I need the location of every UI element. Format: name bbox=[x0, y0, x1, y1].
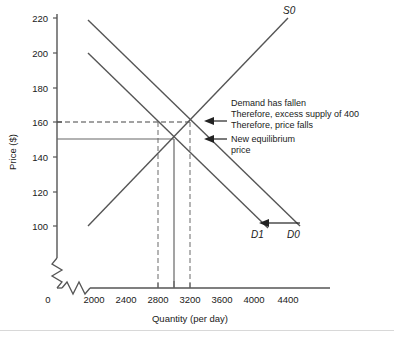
chart-canvas: 220 200 180 160 140 120 100 0 2000 2400 … bbox=[0, 0, 394, 338]
supply-demand-chart: 220 200 180 160 140 120 100 0 2000 2400 … bbox=[0, 0, 394, 338]
demand-old-curve-label: D0 bbox=[287, 229, 300, 240]
y-tick-label-180: 180 bbox=[32, 83, 48, 94]
demand-new-curve-label: D1 bbox=[251, 229, 264, 240]
x-tick-label-3600: 3600 bbox=[211, 294, 232, 305]
x-tick-label-4400: 4400 bbox=[277, 294, 298, 305]
x-tick-label-2000: 2000 bbox=[83, 294, 104, 305]
y-tick-label-200: 200 bbox=[32, 48, 48, 59]
x-tick-label-3200: 3200 bbox=[179, 294, 200, 305]
y-tick-label-140: 140 bbox=[32, 152, 48, 163]
y-tick-label-120: 120 bbox=[32, 187, 48, 198]
x-axis-break-zigzag-icon bbox=[62, 282, 90, 294]
annotation-new-equilibrium-line1: New equilibrium bbox=[231, 134, 295, 144]
x-axis-title: Quantity (per day) bbox=[152, 313, 228, 324]
new-equilibrium-arrow-head-icon bbox=[204, 135, 214, 143]
annotation-demand-fallen-line1: Demand has fallen bbox=[231, 98, 306, 108]
x-tick-label-4000: 4000 bbox=[243, 294, 264, 305]
x-tick-label-0: 0 bbox=[45, 294, 50, 305]
y-axis-break-zigzag-icon bbox=[52, 258, 62, 288]
annotation-demand-fallen-line3: Therefore, price falls bbox=[231, 120, 314, 130]
figure-bottom-rule bbox=[0, 330, 394, 331]
x-tick-label-2400: 2400 bbox=[115, 294, 136, 305]
supply-curve-label: S0 bbox=[283, 5, 296, 16]
x-tick-label-2800: 2800 bbox=[147, 294, 168, 305]
y-axis-title: Price ($) bbox=[7, 134, 18, 170]
annotation-new-equilibrium-line2: price bbox=[231, 145, 251, 155]
demand-fallen-arrow-head-icon bbox=[204, 117, 214, 125]
y-tick-label-220: 220 bbox=[32, 13, 48, 24]
y-tick-label-160: 160 bbox=[32, 117, 48, 128]
annotation-demand-fallen-line2: Therefore, excess supply of 400 bbox=[231, 109, 359, 119]
y-tick-label-100: 100 bbox=[32, 221, 48, 232]
